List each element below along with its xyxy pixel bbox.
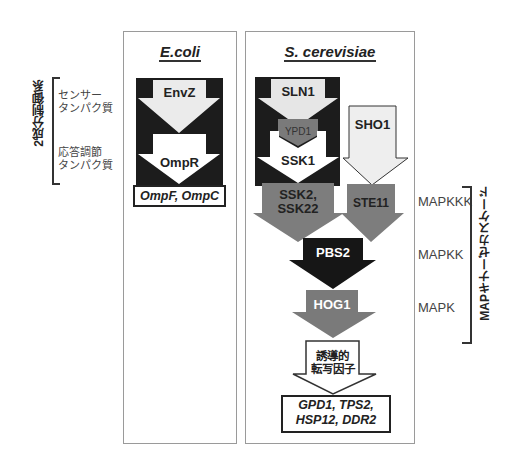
pbs2-label: PBS2 xyxy=(303,246,363,260)
ssk1-label: SSK1 xyxy=(270,154,326,168)
ypd1-label: YPD1 xyxy=(278,125,318,139)
tf-line1: 誘導的 xyxy=(306,350,359,363)
ssk22-text: SSK22 xyxy=(262,202,334,216)
mapk-label: MAPK xyxy=(418,300,455,315)
hog1-label: HOG1 xyxy=(306,298,358,312)
map-kinase-cascade-label: MAPキナーゼカスケード xyxy=(476,186,493,321)
sho1-label: SHO1 xyxy=(349,118,396,132)
ssk2-text: SSK2, xyxy=(262,188,334,202)
right-bracket xyxy=(462,186,472,344)
yeast-target-genes-box: GPD1, TPS2, HSP12, DDR2 xyxy=(281,395,391,433)
target-line1: GPD1, TPS2, xyxy=(283,398,389,413)
ste11-arrow xyxy=(341,184,404,242)
mapkk-label: MAPKK xyxy=(418,247,464,262)
yeast-pathway-graphic xyxy=(0,0,524,463)
ste11-label: STE11 xyxy=(347,196,395,210)
sln1-label: SLN1 xyxy=(271,85,325,99)
ssk2-ssk22-label: SSK2, SSK22 xyxy=(262,188,334,216)
target-line2: HSP12, DDR2 xyxy=(283,413,389,428)
transcription-factor-label: 誘導的 転写因子 xyxy=(306,350,359,376)
tf-line2: 転写因子 xyxy=(306,363,359,376)
